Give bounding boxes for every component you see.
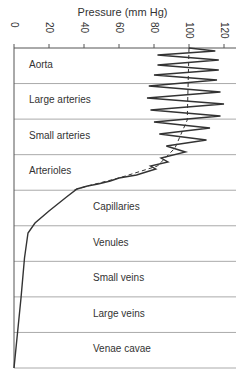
row-dividers bbox=[14, 84, 236, 368]
x-axis bbox=[14, 44, 236, 368]
pressure-chart bbox=[0, 0, 245, 380]
pulsatile-pressure-line bbox=[14, 48, 224, 368]
